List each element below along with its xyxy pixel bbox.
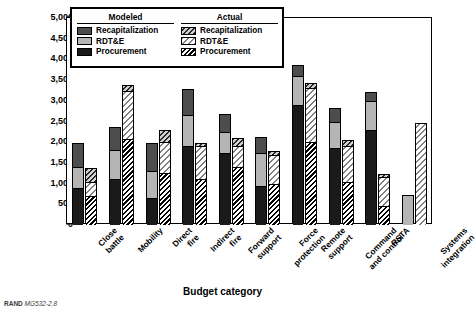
legend-item[interactable]: RDT&E bbox=[181, 37, 278, 46]
legend-group-title: Actual bbox=[181, 12, 278, 24]
bar-modeled bbox=[402, 195, 414, 224]
bar-segment bbox=[160, 173, 170, 225]
legend-item-label: RDT&E bbox=[200, 37, 228, 46]
bar-group bbox=[401, 17, 428, 224]
legend-item[interactable]: Recapitalization bbox=[181, 26, 278, 35]
bar-segment bbox=[330, 109, 340, 121]
figure-code: MG532-2.8 bbox=[25, 300, 58, 307]
bar-segment bbox=[160, 131, 170, 143]
bar-segment bbox=[233, 139, 243, 146]
bar-segment bbox=[110, 128, 120, 151]
bar-actual bbox=[342, 140, 354, 224]
bar-segment bbox=[306, 142, 316, 225]
bar-modeled bbox=[109, 127, 121, 224]
legend-group-modeled: ModeledRecapitalizationRDT&EProcurement bbox=[72, 9, 178, 66]
bar-actual bbox=[159, 130, 171, 224]
bar-segment bbox=[196, 146, 206, 179]
bar-segment bbox=[256, 138, 266, 152]
bar-modeled bbox=[146, 143, 158, 224]
legend-swatch-icon bbox=[77, 27, 92, 35]
bar-segment bbox=[366, 101, 376, 130]
bar-segment bbox=[147, 171, 157, 198]
bar-modeled bbox=[365, 92, 377, 224]
bar-actual bbox=[232, 138, 244, 224]
bar-segment bbox=[256, 186, 266, 225]
x-axis-tick-labels: Close battleMobilityDirect fireIndirect … bbox=[66, 226, 432, 288]
bar-segment bbox=[293, 66, 303, 76]
bar-segment bbox=[366, 93, 376, 101]
legend-item-label: Procurement bbox=[96, 47, 147, 56]
legend-item[interactable]: Procurement bbox=[181, 47, 278, 56]
bar-segment bbox=[147, 198, 157, 225]
bar-actual bbox=[85, 168, 97, 224]
bar-segment bbox=[233, 167, 243, 225]
bar-segment bbox=[269, 155, 279, 184]
bar-segment bbox=[233, 146, 243, 167]
bar-segment bbox=[343, 146, 353, 181]
bar-segment bbox=[256, 153, 266, 186]
legend-swatch-icon bbox=[77, 37, 92, 45]
bar-segment bbox=[183, 90, 193, 115]
legend-group-title: Modeled bbox=[77, 12, 174, 24]
bar-segment bbox=[220, 115, 230, 132]
x-tick-label: Direct fire bbox=[170, 226, 200, 256]
rand-label: RAND bbox=[4, 300, 23, 307]
bar-segment bbox=[86, 196, 96, 225]
x-tick-label: Indirect fire bbox=[209, 226, 244, 261]
legend-swatch-icon bbox=[181, 48, 196, 56]
legend-item[interactable]: RDT&E bbox=[77, 37, 174, 46]
bar-segment bbox=[110, 179, 120, 225]
bar-segment bbox=[110, 150, 120, 179]
bar-segment bbox=[379, 177, 389, 206]
bar-segment bbox=[123, 91, 133, 139]
legend-item[interactable]: Recapitalization bbox=[77, 26, 174, 35]
bar-segment bbox=[196, 179, 206, 225]
bar-segment bbox=[183, 146, 193, 225]
bar-modeled bbox=[329, 108, 341, 224]
bar-actual bbox=[122, 85, 134, 224]
bar-actual bbox=[268, 151, 280, 224]
x-tick-label: Close battle bbox=[97, 226, 126, 255]
bar-segment bbox=[293, 105, 303, 225]
bar-segment bbox=[403, 196, 413, 225]
legend-item[interactable]: Procurement bbox=[77, 47, 174, 56]
x-tick-label: Systems integration bbox=[432, 226, 476, 270]
bar-segment bbox=[183, 115, 193, 146]
bar-modeled bbox=[72, 143, 84, 224]
bar-segment bbox=[73, 144, 83, 167]
legend-swatch-icon bbox=[181, 37, 196, 45]
x-axis-title: Budget category bbox=[0, 286, 445, 297]
bar-segment bbox=[73, 188, 83, 225]
bar-segment bbox=[160, 142, 170, 173]
bar-segment bbox=[86, 182, 96, 196]
bar-segment bbox=[293, 76, 303, 105]
bar-group bbox=[364, 17, 391, 224]
bar-modeled bbox=[255, 137, 267, 224]
figure-source-note: RAND MG532-2.8 bbox=[4, 300, 57, 307]
bar-actual bbox=[415, 123, 427, 224]
legend-group-actual: ActualRecapitalizationRDT&EProcurement bbox=[178, 9, 282, 66]
bar-segment bbox=[343, 182, 353, 225]
bar-segment bbox=[269, 184, 279, 225]
bar-modeled bbox=[292, 65, 304, 224]
bar-segment bbox=[330, 148, 340, 225]
legend-item-label: Procurement bbox=[200, 47, 251, 56]
bar-segment bbox=[220, 153, 230, 225]
x-tick-label: Forward support bbox=[246, 226, 283, 263]
bar-actual bbox=[378, 174, 390, 224]
legend-swatch-icon bbox=[181, 27, 196, 35]
bar-segment bbox=[379, 206, 389, 225]
bar-segment bbox=[73, 167, 83, 188]
bar-segment bbox=[330, 122, 340, 149]
x-tick-label: Remote support bbox=[319, 226, 354, 261]
legend-item-label: RDT&E bbox=[96, 37, 124, 46]
bar-modeled bbox=[219, 114, 231, 224]
bar-segment bbox=[416, 124, 426, 225]
bar-group bbox=[328, 17, 355, 224]
x-tick-label: Mobility bbox=[136, 226, 165, 255]
legend-item-label: Recapitalization bbox=[200, 26, 262, 35]
legend-item-label: Recapitalization bbox=[96, 26, 158, 35]
bar-actual bbox=[305, 83, 317, 224]
bar-modeled bbox=[182, 89, 194, 224]
